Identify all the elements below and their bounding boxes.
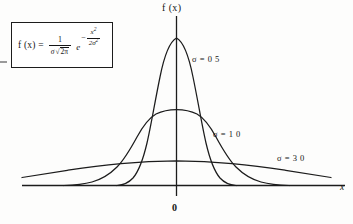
exponent-minus-sign: −	[81, 33, 87, 42]
exponent-denominator: 2σ2	[87, 39, 101, 47]
exponent-numerator-power: 2	[94, 26, 97, 32]
x-axis-label: x	[340, 182, 344, 192]
formula-box: f (x) = 1 σ√2π e − x2 2σ2	[11, 22, 113, 68]
curve-label-sigma-0-5: σ = 0 5	[192, 54, 220, 64]
formula-denominator: σ√2π	[49, 46, 71, 56]
formula-fraction: 1 σ√2π	[49, 36, 71, 56]
y-axis-label: f (x)	[162, 2, 182, 13]
exponent-group: − x2 2σ2	[81, 29, 100, 47]
exponent-denominator-power: 2	[96, 37, 99, 43]
sqrt-group: √2π	[54, 47, 69, 56]
formula-content: f (x) = 1 σ√2π e − x2 2σ2	[18, 23, 108, 67]
exponential-base: e	[73, 42, 80, 52]
origin-tick-label: 0	[172, 202, 177, 213]
formula-numerator: 1	[55, 36, 65, 45]
normal-distribution-figure: f (x) = 1 σ√2π e − x2 2σ2 f (x) x 0 σ = …	[0, 0, 353, 224]
exponent-fraction: x2 2σ2	[87, 29, 101, 47]
curve-label-sigma-1-0: σ = 1 0	[213, 129, 241, 139]
formula-lhs: f (x) =	[18, 40, 47, 50]
curve-label-sigma-3-0: σ = 3 0	[277, 153, 305, 163]
sqrt-radicand: 2π	[60, 47, 70, 56]
